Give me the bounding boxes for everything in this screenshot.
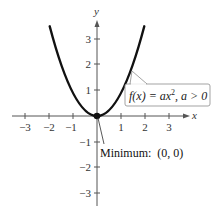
y-tick-label: 2 — [86, 58, 92, 70]
x-axis-arrow-icon — [183, 114, 190, 119]
callout-formula-main: f(x) = ax — [129, 89, 172, 103]
minimum-label: Minimum: (0, 0) — [100, 146, 183, 160]
y-axis-arrow-icon — [95, 20, 100, 27]
x-tick-label: −2 — [43, 121, 55, 133]
y-axis-label: y — [93, 5, 99, 17]
callout-condition: , a > 0 — [175, 89, 207, 103]
y-tick-label: −2 — [79, 161, 91, 173]
y-tick-label: −1 — [79, 136, 91, 148]
x-axis-label: x — [191, 109, 197, 121]
x-tick-labels: −3 −2 −1 1 2 3 — [19, 121, 172, 133]
x-tick-label: 3 — [166, 121, 172, 133]
x-tick-label: −1 — [65, 121, 77, 133]
y-tick-label: 1 — [86, 84, 92, 96]
x-tick-label: −3 — [19, 121, 31, 133]
minimum-point — [94, 113, 101, 120]
function-callout: f(x) = ax2, a > 0 — [125, 71, 210, 106]
minimum-leader-line — [98, 118, 104, 144]
y-tick-label: −3 — [79, 187, 91, 199]
callout-pointer — [130, 71, 147, 84]
x-tick-label: 2 — [142, 121, 148, 133]
x-tick-label: 1 — [118, 121, 124, 133]
y-tick-label: 3 — [86, 33, 92, 45]
parabola-chart: x y −3 −2 −1 1 2 3 3 2 1 −1 −2 −3 — [0, 0, 216, 216]
callout-formula: f(x) = ax2, a > 0 — [129, 88, 207, 103]
